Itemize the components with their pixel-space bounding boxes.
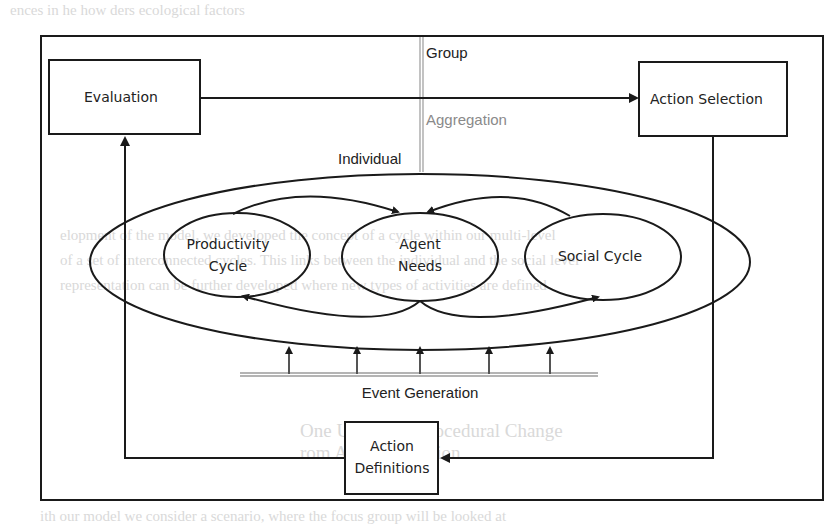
event-arrows bbox=[289, 348, 550, 374]
aggregation-label: Aggregation bbox=[426, 111, 507, 128]
action-definitions-label-2: Definitions bbox=[354, 458, 429, 479]
action-definitions-label-1: Action bbox=[370, 436, 414, 457]
individual-label: Individual bbox=[338, 150, 401, 167]
arrow-needs-to-social bbox=[420, 297, 598, 317]
action-selection-label: Action Selection bbox=[650, 91, 763, 107]
arrow-productivity-to-needs bbox=[233, 196, 398, 214]
arrow-social-to-needs bbox=[428, 197, 570, 216]
agent-needs-label-1: Agent bbox=[399, 234, 440, 255]
social-cycle-label: Social Cycle bbox=[558, 246, 642, 267]
group-label: Group bbox=[426, 44, 468, 61]
arrow-definitions-to-evaluation bbox=[125, 138, 345, 458]
productivity-cycle-ellipse bbox=[164, 213, 310, 297]
productivity-cycle-label-2: Cycle bbox=[209, 256, 247, 277]
productivity-cycle-label-1: Productivity bbox=[187, 234, 270, 255]
evaluation-label: Evaluation bbox=[84, 89, 158, 105]
agent-needs-label-2: Needs bbox=[398, 256, 442, 277]
event-generation-label: Event Generation bbox=[362, 382, 479, 403]
